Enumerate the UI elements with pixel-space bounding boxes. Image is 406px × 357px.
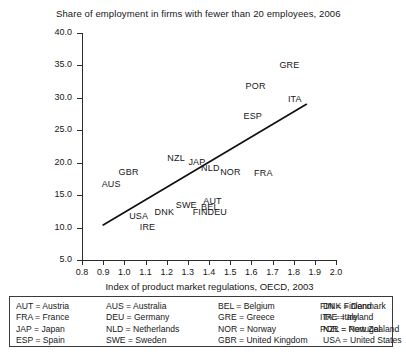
data-point-label-dnk: DNK	[155, 207, 175, 217]
y-tick-label: 20.0	[38, 157, 72, 167]
data-point-label-gbr: GBR	[119, 167, 139, 177]
y-tick-mark	[77, 33, 82, 34]
data-point-label-esp: ESP	[243, 111, 262, 121]
y-tick-label: 30.0	[38, 92, 72, 102]
data-point-label-ita: ITA	[288, 94, 302, 104]
x-tick-mark	[251, 260, 252, 265]
y-tick-mark	[77, 65, 82, 66]
legend-entry: AUT = Austria	[16, 301, 106, 312]
x-tick-mark	[146, 260, 147, 265]
legend-column-5: FIN = FinlandITA = ItalyPOR = Portugal	[320, 301, 380, 335]
x-tick-mark	[209, 260, 210, 265]
data-point-label-aut: AUT	[203, 196, 222, 206]
x-tick-mark	[103, 260, 104, 265]
legend-entry: AUS = Australia	[106, 301, 218, 312]
legend-entry: NOR = Norway	[218, 324, 323, 335]
legend-entry: NLD = Netherlands	[106, 324, 218, 335]
chart-figure: Share of employment in firms with fewer …	[0, 0, 406, 357]
legend-entry: SWE = Sweden	[106, 335, 218, 346]
data-point-label-por: POR	[246, 81, 266, 91]
legend-entry: FRA = France	[16, 312, 106, 323]
legend-entry: FIN = Finland	[320, 301, 380, 312]
country-code-legend: AUT = AustriaAUS = AustraliaBEL = Belgiu…	[9, 296, 393, 347]
data-point-label-fra: FRA	[254, 168, 273, 178]
y-tick-label: 10.0	[38, 222, 72, 232]
legend-entry: JAP = Japan	[16, 324, 106, 335]
y-tick-mark	[77, 163, 82, 164]
data-point-label-nld: NLD	[201, 163, 220, 173]
x-tick-label: 2.0	[323, 267, 349, 277]
y-tick-mark	[77, 98, 82, 99]
legend-entry: GBR = United Kingdom	[218, 335, 323, 346]
legend-entry: BEL = Belgium	[218, 301, 323, 312]
x-tick-mark	[294, 260, 295, 265]
data-point-label-usa: USA	[129, 211, 148, 221]
y-tick-label: 35.0	[38, 59, 72, 69]
y-tick-label: 25.0	[38, 124, 72, 134]
data-point-label-nzl: NZL	[167, 153, 185, 163]
legend-entry: POR = Portugal	[320, 324, 380, 335]
x-tick-mark	[124, 260, 125, 265]
chart-title: Share of employment in firms with fewer …	[56, 8, 341, 19]
y-tick-label: 5.0	[38, 254, 72, 264]
data-point-label-ire: IRE	[140, 222, 156, 232]
x-axis-title: Index of product market regulations, OEC…	[82, 281, 337, 292]
x-tick-mark	[336, 260, 337, 265]
y-tick-label: 15.0	[38, 189, 72, 199]
data-point-label-nor: NOR	[220, 167, 241, 177]
legend-entry: GRE = Greece	[218, 312, 323, 323]
x-tick-mark	[82, 260, 83, 265]
y-tick-mark	[77, 130, 82, 131]
data-point-label-gre: GRE	[279, 60, 299, 70]
legend-entry: DEU = Germany	[106, 312, 218, 323]
data-point-label-aus: AUS	[102, 179, 121, 189]
x-tick-mark	[167, 260, 168, 265]
legend-entry: ESP = Spain	[16, 335, 106, 346]
x-tick-mark	[315, 260, 316, 265]
legend-entry: ITA = Italy	[320, 312, 380, 323]
legend-entry: USA = United States	[323, 335, 393, 346]
y-tick-mark	[77, 195, 82, 196]
y-axis-line	[82, 33, 83, 261]
x-tick-mark	[188, 260, 189, 265]
y-tick-mark	[77, 228, 82, 229]
x-tick-mark	[273, 260, 274, 265]
x-tick-mark	[230, 260, 231, 265]
y-tick-label: 40.0	[38, 27, 72, 37]
